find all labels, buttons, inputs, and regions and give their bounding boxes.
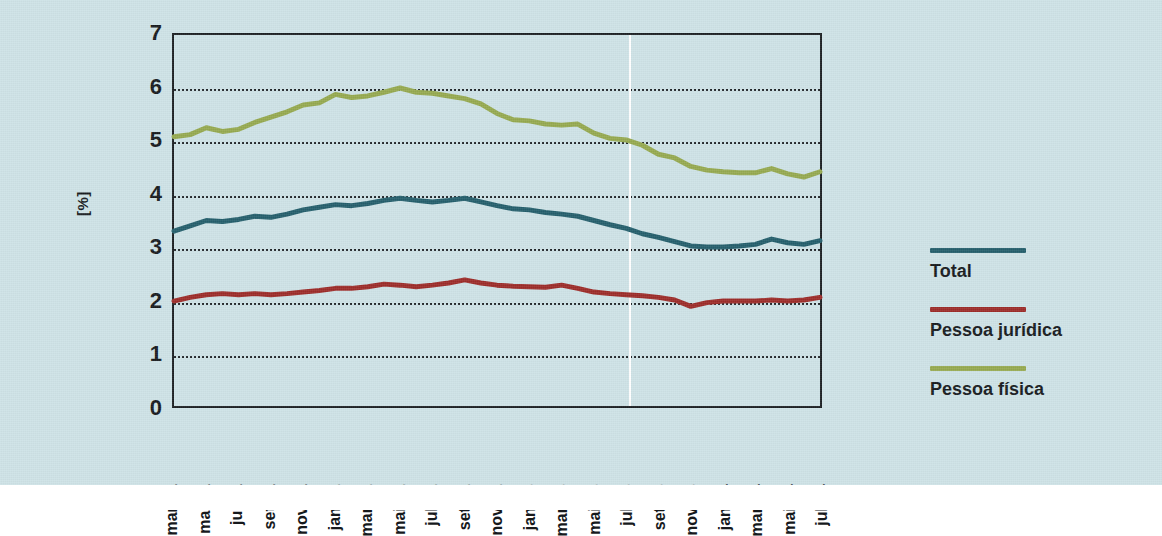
y-tick-6: 6 [122, 76, 162, 98]
y-tick-0: 0 [122, 397, 162, 419]
legend-total-label: Total [930, 261, 1140, 282]
chart-figure: [%] 01234567 mar-11mai-11jul-11set-11nov… [0, 0, 1162, 485]
series-line-pessoa-física [174, 88, 820, 177]
legend-total-swatch [930, 248, 1026, 253]
y-tick-3: 3 [122, 236, 162, 258]
legend-pessoa-juridica: Pessoa jurídica [930, 307, 1140, 341]
legend-pessoa-juridica-swatch [930, 307, 1026, 312]
y-tick-5: 5 [122, 129, 162, 151]
chart-legend: TotalPessoa jurídicaPessoa física [930, 248, 1140, 425]
series-line-pessoa-jurídica [174, 280, 820, 307]
legend-pessoa-juridica-label: Pessoa jurídica [930, 320, 1140, 341]
y-tick-7: 7 [122, 22, 162, 44]
page-bottom-margin [0, 485, 1162, 510]
y-tick-4: 4 [122, 183, 162, 205]
y-tick-2: 2 [122, 290, 162, 312]
plot-area [172, 33, 822, 408]
y-axis-tick-labels: 01234567 [118, 33, 162, 408]
y-tick-1: 1 [122, 343, 162, 365]
legend-total: Total [930, 248, 1140, 282]
series-lines [174, 35, 820, 406]
legend-pessoa-fisica-label: Pessoa física [930, 379, 1140, 400]
series-line-total [174, 198, 820, 247]
legend-pessoa-fisica-swatch [930, 366, 1026, 371]
x-axis-tick-labels: mar-11mai-11jul-11set-11nov-11jan-12mar-… [172, 412, 822, 490]
legend-pessoa-fisica: Pessoa física [930, 366, 1140, 400]
y-axis-title: [%] [74, 191, 91, 216]
